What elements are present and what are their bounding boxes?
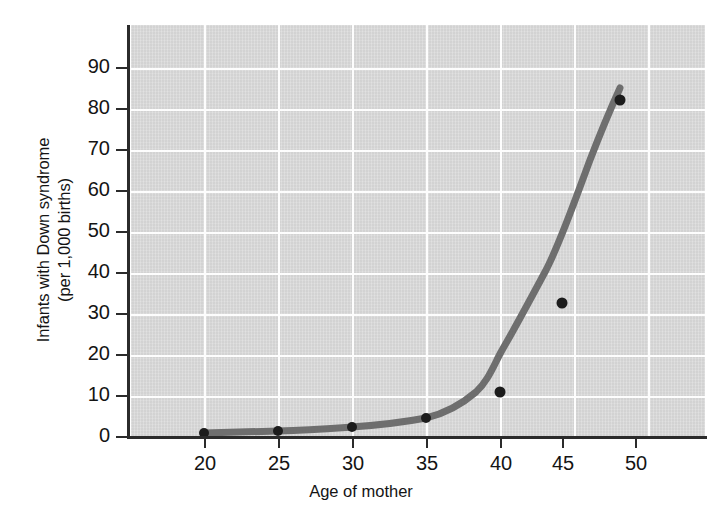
y-tick-mark bbox=[116, 313, 128, 315]
gridline-horizontal bbox=[131, 314, 705, 316]
gridline-horizontal bbox=[131, 109, 705, 111]
gridline-horizontal bbox=[131, 396, 705, 398]
x-tick-label: 25 bbox=[257, 452, 301, 475]
x-tick-label: 50 bbox=[614, 452, 658, 475]
plot-area bbox=[131, 25, 705, 437]
y-tick-label: 30 bbox=[70, 301, 110, 324]
y-tick-mark bbox=[116, 436, 128, 438]
gridline-vertical bbox=[648, 25, 650, 437]
y-tick-label: 60 bbox=[70, 178, 110, 201]
gridline-horizontal bbox=[131, 150, 705, 152]
gridline-vertical bbox=[204, 25, 206, 437]
gridline-vertical bbox=[278, 25, 280, 437]
y-tick-mark bbox=[116, 231, 128, 233]
y-tick-mark bbox=[116, 395, 128, 397]
x-tick-label: 40 bbox=[479, 452, 523, 475]
y-tick-mark bbox=[116, 190, 128, 192]
y-tick-mark bbox=[116, 149, 128, 151]
x-axis-title: Age of mother bbox=[0, 482, 722, 501]
y-tick-label: 50 bbox=[70, 219, 110, 242]
y-tick-label: 20 bbox=[70, 342, 110, 365]
x-tick-mark bbox=[500, 437, 502, 448]
x-tick-mark bbox=[635, 437, 637, 448]
gridline-horizontal bbox=[131, 232, 705, 234]
y-tick-mark bbox=[116, 108, 128, 110]
gridline-horizontal bbox=[131, 68, 705, 70]
y-tick-mark bbox=[116, 354, 128, 356]
x-tick-mark bbox=[204, 437, 206, 448]
y-tick-label: 90 bbox=[70, 55, 110, 78]
gridline-horizontal bbox=[131, 273, 705, 275]
y-tick-label: 10 bbox=[70, 383, 110, 406]
x-tick-mark bbox=[278, 437, 280, 448]
x-tick-label: 20 bbox=[183, 452, 227, 475]
y-tick-label: 70 bbox=[70, 137, 110, 160]
gridline-vertical bbox=[352, 25, 354, 437]
gridline-vertical bbox=[500, 25, 502, 437]
y-tick-mark bbox=[116, 67, 128, 69]
x-tick-mark bbox=[562, 437, 564, 448]
gridline-horizontal bbox=[131, 191, 705, 193]
y-tick-mark bbox=[116, 272, 128, 274]
y-axis-title-line-1: Infants with Down syndrome bbox=[33, 138, 54, 343]
chart-figure: Infants with Down syndrome (per 1,000 bi… bbox=[0, 0, 722, 513]
x-tick-label: 35 bbox=[405, 452, 449, 475]
x-tick-label: 45 bbox=[541, 452, 585, 475]
x-tick-mark bbox=[426, 437, 428, 448]
x-axis-line bbox=[127, 436, 707, 439]
y-tick-label: 80 bbox=[70, 96, 110, 119]
y-tick-label: 40 bbox=[70, 260, 110, 283]
gridline-horizontal bbox=[131, 355, 705, 357]
gridline-vertical bbox=[574, 25, 576, 437]
x-tick-mark bbox=[352, 437, 354, 448]
y-tick-label: 0 bbox=[70, 424, 110, 447]
gridline-vertical bbox=[426, 25, 428, 437]
x-tick-label: 30 bbox=[331, 452, 375, 475]
